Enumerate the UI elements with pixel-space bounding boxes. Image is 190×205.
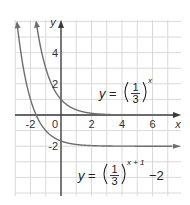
curve-1 <box>36 23 172 115</box>
equation-labels: y = 13xy = 13x + 1−2 <box>77 76 164 187</box>
y-tick-label: -2 <box>48 140 58 152</box>
svg-text:y =: y = <box>77 168 96 183</box>
svg-text:1: 1 <box>111 163 117 175</box>
x-tick-label: 6 <box>149 118 155 130</box>
y-tick-label: 2 <box>52 78 58 90</box>
curves <box>15 21 181 149</box>
y-axis-label: y <box>49 16 57 28</box>
x-axis-label: x <box>174 118 181 130</box>
svg-text:−2: −2 <box>149 168 164 183</box>
asymptote-arrow-icon <box>173 144 181 149</box>
svg-text:y =: y = <box>98 86 117 101</box>
x-tick-label: -2 <box>26 118 36 130</box>
exponential-graph: -2246042-2xy y = 13xy = 13x + 1−2 <box>0 0 190 205</box>
svg-text:3: 3 <box>111 175 117 187</box>
svg-text:1: 1 <box>132 81 138 93</box>
equation-label-2: y = 13x + 1−2 <box>77 158 164 187</box>
svg-text:3: 3 <box>132 93 138 105</box>
svg-text:x + 1: x + 1 <box>126 158 145 167</box>
x-tick-label: 2 <box>88 118 94 130</box>
x-tick-label: 4 <box>119 118 125 130</box>
origin-label: 0 <box>52 118 58 130</box>
y-tick-label: 4 <box>52 47 58 59</box>
